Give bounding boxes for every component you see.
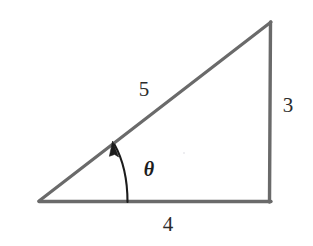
label-opposite-side: 3 — [283, 95, 294, 116]
label-angle-theta: θ — [144, 159, 154, 179]
triangle-side-opposite — [270, 22, 271, 202]
geometry-figure: 5 3 4 θ — [0, 0, 313, 246]
triangle-diagram-canvas — [0, 0, 313, 246]
triangle-outline — [39, 22, 271, 202]
label-adjacent-side: 4 — [163, 214, 174, 235]
label-hypotenuse: 5 — [139, 79, 150, 100]
scan-speck — [183, 152, 185, 154]
triangle-side-hypotenuse — [39, 22, 271, 201]
angle-arc-arrow — [109, 141, 127, 202]
